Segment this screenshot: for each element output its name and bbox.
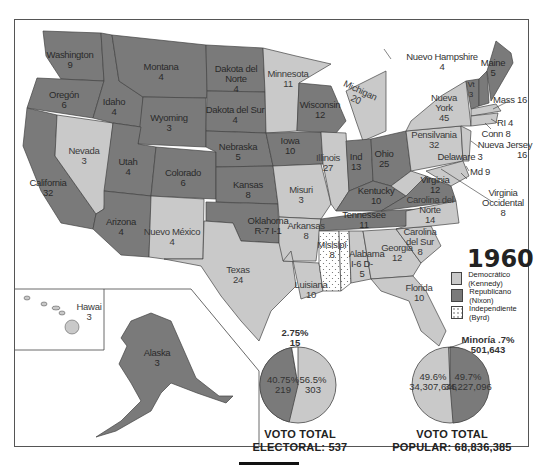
electoral-pie-caption: VOTO TOTALELECTORAL: 537 [253,428,348,454]
hawaii-islands [24,296,79,334]
label-hawai: Hawai3 [77,302,102,322]
legend-swatch-ind [451,306,463,319]
label-nueva-york: Nueva York45 [429,93,459,123]
legend-swatch-dem [451,272,462,285]
electoral-pie-ind-label: 2.75%15 [282,328,309,348]
label-washington: Washington9 [47,50,94,70]
label-indiana: Ind13 [350,152,362,172]
label-texas: Texas24 [226,265,249,285]
label-kentucky: Kentucky10 [358,186,395,206]
label-utah: Utah4 [119,157,138,177]
label-arkansas: Arkansas8 [287,221,324,241]
label-illinois: Illinois27 [316,153,340,173]
label-delaware: Delaware 3 [437,152,482,162]
label-carolina-norte: Carolina del Norte14 [405,195,455,225]
label-luisiana: Luisiana10 [295,280,328,300]
label-virginia-occidental: Virginia Occidental8 [473,188,533,218]
label-oklahoma: OklahomaR-7 I-1 [248,216,289,236]
label-connecticut: Conn 8 [482,129,511,139]
label-california: California32 [29,178,66,198]
label-montana: Montana4 [144,62,179,82]
label-massachusetts: Mass 16 [493,95,527,105]
label-kansas: Kansas8 [233,180,263,200]
label-nuevo-hampshire: Nuevo Hampshire4 [406,52,478,72]
legend-label-dem: Democrático (Kennedy) [468,270,528,288]
label-minnesota: Minnesota11 [267,69,308,89]
legend-item-dem: Democrático (Kennedy) [451,270,528,287]
label-vermont: Vt3 [468,80,475,100]
electoral-pie-dem-label: 56.5%303 [300,375,327,395]
label-misuri: Misuri3 [289,185,313,205]
label-pensilvania: Pensilvania32 [411,130,456,150]
label-iowa: Iowa10 [281,136,300,156]
label-ohio: Ohio25 [375,149,394,169]
label-alabama: AlabamaI-6 D-5 [349,249,375,279]
electoral-pie-rep-label: 40.75%219 [267,375,299,395]
label-virginia: Virginia12 [420,175,449,195]
label-carolina-sur: Carolina del Sur8 [403,227,437,257]
label-nebraska: Nebraska5 [219,142,257,162]
label-nueva-jersey: Nueva Jersey16 [478,140,532,160]
label-dakota-norte: Dakota del Norte4 [214,64,258,94]
label-wyoming: Wyoming3 [150,113,187,133]
label-wisconsin: Wisconsin12 [300,100,341,120]
label-misisipi: Misisipí8 [317,240,346,260]
label-maryland: Md 9 [470,167,490,177]
popular-pie-minority-label: Minoría .7%501,643 [462,335,515,355]
label-rhode-island: RI 4 [497,118,513,128]
label-maine: Maine5 [481,58,505,78]
label-arizona: Arizona4 [106,217,136,237]
label-nevada: Nevada3 [69,146,100,166]
state-alaska [96,313,233,437]
label-oregon: Oregón6 [49,90,79,110]
legend-item-ind: Independiente (Byrd) [451,304,528,321]
legend: Democrático (Kennedy) Republicano (Nixon… [451,270,528,321]
label-colorado: Colorado6 [165,168,201,188]
label-nuevo-mexico: Nuevo México4 [144,227,201,247]
legend-swatch-rep [451,289,463,302]
label-alaska: Alaska3 [144,348,171,368]
legend-item-rep: Republicano (Nixon) [451,287,528,304]
legend-label-rep: Republicano (Nixon) [469,287,528,305]
label-dakota-sur: Dakota del Sur4 [206,105,265,125]
popular-pie-caption: VOTO TOTALPOPULAR: 68,836,385 [392,428,511,454]
label-tennessee: Tennessee11 [342,210,385,230]
legend-label-ind: Independiente (Byrd) [469,304,528,322]
label-florida: Florida10 [406,283,433,303]
popular-pie-rep-label: 49.7%34,227,096 [444,372,492,392]
label-idaho: Idaho4 [103,97,125,117]
